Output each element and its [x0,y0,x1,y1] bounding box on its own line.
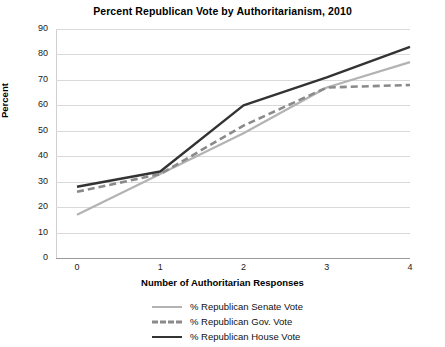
legend-label: % Republican Gov. Vote [190,316,292,327]
y-tick-label: 70 [14,75,48,84]
x-tick-label: 3 [312,262,342,272]
chart-container: Percent Republican Vote by Authoritarian… [0,0,445,347]
x-axis-line [56,258,410,259]
gridline [56,29,410,30]
x-axis-title: Number of Authoritarian Responses [0,277,445,288]
x-tick-label: 1 [145,262,175,272]
gridline [56,131,410,132]
x-tick-label: 0 [62,262,92,272]
y-tick-label: 50 [14,126,48,135]
chart-legend: % Republican Senate Vote% Republican Gov… [0,299,445,344]
y-tick-label: 60 [14,100,48,109]
gridline [56,156,410,157]
y-axis-spine [56,29,57,258]
gridline [56,80,410,81]
y-tick-label: 30 [14,177,48,186]
y-tick-label: 20 [14,202,48,211]
gridline [56,233,410,234]
y-tick-label: 90 [14,24,48,33]
gridline [56,105,410,106]
legend-swatch-icon [152,301,182,313]
gridline [56,182,410,183]
gridline [56,54,410,55]
y-tick-label: 80 [14,49,48,58]
y-axis-title: Percent [0,83,10,118]
legend-item[interactable]: % Republican Gov. Vote [0,314,445,329]
legend-swatch-icon [152,331,182,343]
y-tick-label: 10 [14,228,48,237]
y-tick-label: 40 [14,151,48,160]
legend-label: % Republican House Vote [190,331,300,342]
legend-label: % Republican Senate Vote [190,301,303,312]
gridline [56,207,410,208]
plot-area [56,29,410,258]
legend-swatch-icon [152,316,182,328]
x-tick-label: 2 [229,262,259,272]
legend-item[interactable]: % Republican House Vote [0,329,445,344]
legend-item[interactable]: % Republican Senate Vote [0,299,445,314]
x-tick-label: 4 [395,262,425,272]
y-tick-label: 0 [14,253,48,262]
chart-title: Percent Republican Vote by Authoritarian… [0,5,445,17]
